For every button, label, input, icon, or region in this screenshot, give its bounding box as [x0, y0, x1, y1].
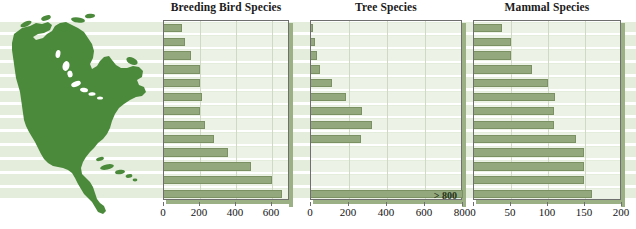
bar	[474, 148, 584, 156]
bar	[474, 93, 555, 101]
bar	[474, 79, 548, 87]
chart-panel: Mammal Species050100150200	[0, 0, 636, 229]
axis-tick-label: 50	[505, 206, 516, 218]
bar	[474, 176, 584, 184]
bar	[474, 135, 576, 143]
plot-area	[473, 20, 621, 200]
bar	[474, 190, 592, 198]
bar	[474, 121, 554, 129]
plot-shadow-right	[621, 23, 625, 207]
bar	[474, 24, 502, 32]
axis-tick-label: 100	[539, 206, 556, 218]
x-axis: 050100150200	[473, 206, 621, 226]
bar	[474, 107, 554, 115]
bar	[474, 65, 532, 73]
bar	[474, 38, 511, 46]
plot-shadow-bottom	[476, 200, 625, 204]
axis-tick-label: 0	[470, 206, 476, 218]
bar	[474, 162, 584, 170]
figure-root: Breeding Bird Species0200400600Tree Spec…	[0, 0, 636, 229]
gridline	[585, 21, 586, 199]
chart-title: Mammal Species	[443, 1, 636, 13]
bar	[474, 51, 511, 59]
axis-tick-label: 150	[576, 206, 593, 218]
axis-tick-label: 200	[613, 206, 630, 218]
